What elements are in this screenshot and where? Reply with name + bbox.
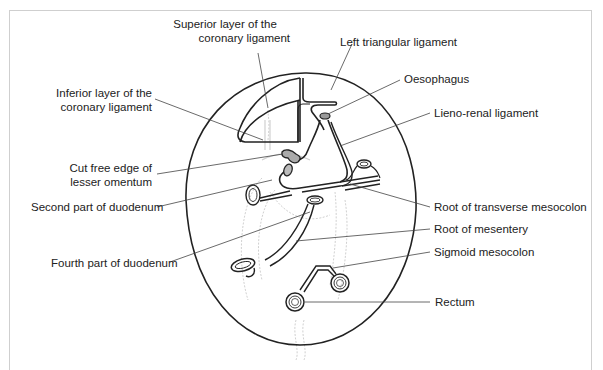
label-second-part-duodenum: Second part of duodenum: [31, 200, 163, 214]
label-sigmoid-mesocolon: Sigmoid mesocolon: [434, 245, 534, 259]
label-root-of-mesentery: Root of mesentery: [434, 222, 528, 236]
label-line: coronary ligament: [20, 100, 152, 114]
label-line: coronary ligament: [160, 31, 290, 45]
label-fourth-part-duodenum: Fourth part of duodenum: [51, 256, 178, 270]
label-left-triangular-ligament: Left triangular ligament: [340, 35, 457, 49]
faint-outlines: [241, 110, 347, 360]
descending-colon-ring: [357, 160, 371, 168]
caecum-ring: [230, 256, 256, 274]
label-line: Superior layer of the: [160, 17, 290, 31]
label-line: Cut free edge of: [20, 161, 152, 175]
label-rectum: Rectum: [435, 295, 475, 309]
sigmoid-mesocolon: [300, 266, 336, 292]
label-root-transverse-mesocolon: Root of transverse mesocolon: [434, 200, 587, 214]
leader-lines: [155, 44, 430, 302]
label-lieno-renal-ligament: Lieno-renal ligament: [434, 106, 538, 120]
fourth-duodenum-ring: [307, 196, 323, 204]
label-cut-free-edge-lesser-omentum: Cut free edge of lesser omentum: [20, 161, 152, 189]
lesser-omentum-edge: [282, 150, 300, 163]
second-duodenum-ring: [246, 185, 260, 205]
label-oesophagus: Oesophagus: [404, 72, 469, 86]
label-line: lesser omentum: [20, 175, 152, 189]
label-superior-coronary-ligament: Superior layer of the coronary ligament: [160, 17, 290, 45]
label-line: Inferior layer of the: [20, 86, 152, 100]
label-inferior-coronary-ligament: Inferior layer of the coronary ligament: [20, 86, 152, 114]
